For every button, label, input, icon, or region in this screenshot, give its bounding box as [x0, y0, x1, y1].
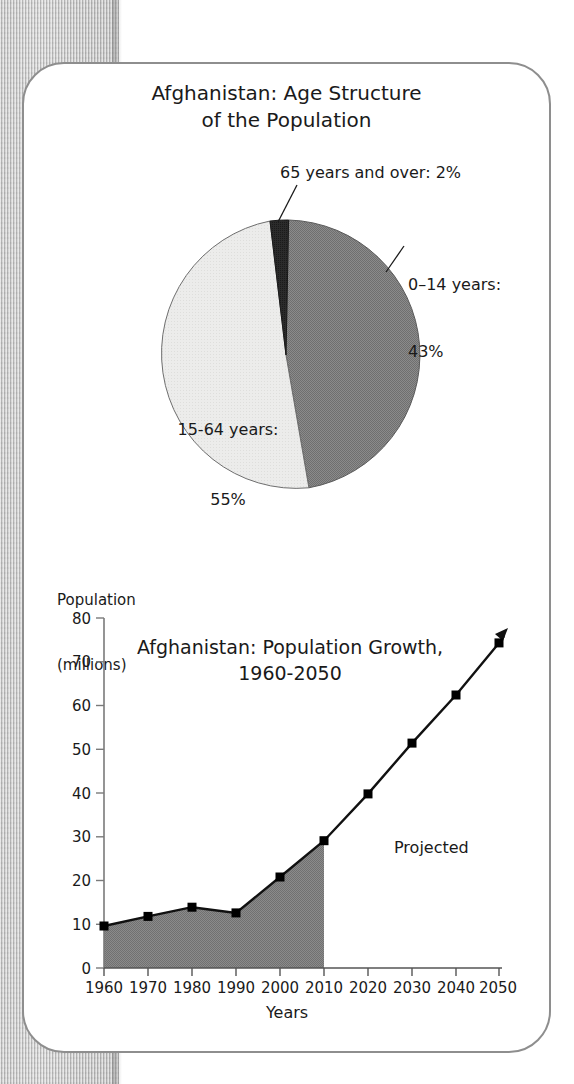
x-tick-label: 2040: [437, 979, 475, 997]
x-tick-label: 1960: [85, 979, 123, 997]
data-marker: [495, 638, 504, 647]
data-marker: [320, 836, 329, 845]
x-tick-label: 1990: [217, 979, 255, 997]
x-tick-label: 2000: [261, 979, 299, 997]
data-marker: [408, 739, 417, 748]
y-axis-tick-labels: 80 70 60 50 40 30 20 10 0: [72, 610, 91, 978]
population-growth-chart: 80 70 60 50 40 30 20 10 0 1960 1970 1980…: [0, 0, 574, 1084]
y-tick-label: 20: [72, 872, 91, 890]
line-chart-title-line-1: Afghanistan: Population Growth,: [100, 635, 480, 661]
y-tick-label: 40: [72, 785, 91, 803]
y-tick-label: 30: [72, 828, 91, 846]
line-chart-title: Afghanistan: Population Growth, 1960-205…: [100, 635, 480, 686]
x-tick-label: 2030: [393, 979, 431, 997]
data-marker: [364, 789, 373, 798]
x-tick-label: 1970: [129, 979, 167, 997]
x-axis-tick-labels: 1960 1970 1980 1990 2000 2010 2020 2030 …: [85, 979, 517, 997]
x-axis-ticks: [104, 968, 499, 976]
y-tick-label: 60: [72, 697, 91, 715]
area-historical: [104, 841, 324, 968]
data-marker: [188, 903, 197, 912]
data-marker: [232, 908, 241, 917]
x-tick-label: 1980: [173, 979, 211, 997]
data-marker: [452, 691, 461, 700]
y-tick-label: 50: [72, 741, 91, 759]
x-tick-label: 2010: [305, 979, 343, 997]
y-tick-label: 10: [72, 916, 91, 934]
data-marker: [100, 922, 109, 931]
line-chart-title-line-2: 1960-2050: [100, 661, 480, 687]
y-tick-label: 70: [72, 653, 91, 671]
data-marker: [144, 912, 153, 921]
x-tick-label: 2020: [349, 979, 387, 997]
x-tick-label: 2050: [479, 979, 517, 997]
x-axis-title: Years: [0, 1003, 574, 1022]
data-marker: [276, 873, 285, 882]
projected-region-label: Projected: [394, 838, 469, 857]
y-tick-label: 80: [72, 610, 91, 628]
y-tick-label: 0: [81, 960, 91, 978]
